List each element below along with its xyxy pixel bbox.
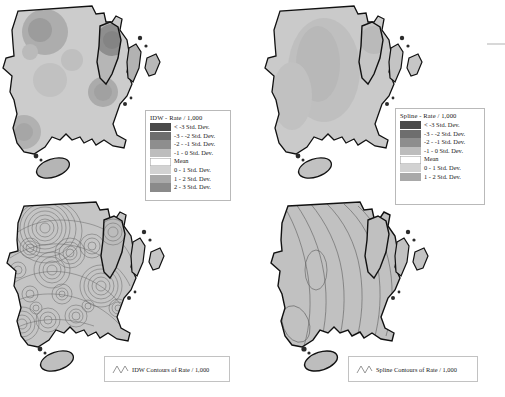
islet-f xyxy=(302,159,305,162)
legend-swatch xyxy=(400,130,421,138)
legend-idw-surface: IDW - Rate / 1,000 < -3 Std. Dev. -3 - -… xyxy=(145,110,231,201)
islet-f xyxy=(40,159,43,162)
legend-label: -2 - -1 Std. Dev. xyxy=(421,138,465,147)
islet-f xyxy=(307,351,310,354)
islet-a xyxy=(142,230,146,234)
contour-line-icon xyxy=(356,364,373,374)
islet-c xyxy=(391,296,395,300)
islet-c xyxy=(127,296,131,300)
legend-idw-rows: < -3 Std. Dev. -3 - -2 Std. Dev. -2 - -1… xyxy=(146,123,230,192)
legend-swatch xyxy=(150,123,171,131)
legend-row: -1 - 0 Std. Dev. xyxy=(150,149,230,158)
islet-b xyxy=(148,238,151,241)
legend-swatch xyxy=(150,132,171,140)
legend-spline-title: Spline - Rate / 1,000 xyxy=(396,109,484,121)
islet-b xyxy=(406,44,409,47)
corner-rule-mark xyxy=(487,43,505,45)
islet-a xyxy=(406,230,410,234)
island-east-1 xyxy=(395,238,409,276)
legend-label: Mean xyxy=(171,157,189,166)
legend-label: 2 - 3 Std. Dev. xyxy=(171,183,211,192)
legend-swatch xyxy=(150,175,171,183)
legend-row: Mean xyxy=(400,155,484,164)
island-east-1 xyxy=(127,44,141,82)
islet-e xyxy=(38,347,43,352)
islet-f xyxy=(44,352,47,355)
legend-label: -3 - -2 Std. Dev. xyxy=(421,130,465,139)
legend-swatch xyxy=(400,138,421,146)
legend-swatch xyxy=(150,183,171,191)
island-east-2 xyxy=(145,54,160,76)
islet-d xyxy=(134,291,137,294)
legend-idw-title: IDW - Rate / 1,000 xyxy=(146,111,230,123)
islet-e xyxy=(296,154,301,159)
block-island xyxy=(296,154,334,182)
legend-spline-contours: Spline Contours of Rate / 1,000 xyxy=(348,356,478,382)
block-island xyxy=(34,154,72,182)
legend-label: 0 - 1 Std. Dev. xyxy=(421,164,461,173)
islet-c xyxy=(385,102,389,106)
legend-label: < -3 Std. Dev. xyxy=(171,123,210,132)
legend-row: 1 - 2 Std. Dev. xyxy=(400,173,484,182)
block-island xyxy=(302,347,340,375)
contour-line-icon xyxy=(112,364,129,374)
legend-swatch xyxy=(400,156,421,164)
islet-b xyxy=(412,238,415,241)
islet-d xyxy=(392,97,395,100)
panel-idw-surface: IDW - Rate / 1,000 < -3 Std. Dev. -3 - -… xyxy=(0,0,253,200)
island-east-2 xyxy=(413,248,428,270)
legend-row: < -3 Std. Dev. xyxy=(150,123,230,132)
legend-spline-rows: < -3 Std. Dev. -3 - -2 Std. Dev. -2 - -1… xyxy=(396,121,484,181)
island-east-1 xyxy=(389,44,403,82)
legend-row: < -3 Std. Dev. xyxy=(400,121,484,130)
legend-row: 1 - 2 Std. Dev. xyxy=(150,175,230,184)
islet-c xyxy=(123,102,127,106)
legend-label: 1 - 2 Std. Dev. xyxy=(421,173,461,182)
legend-row: -2 - -1 Std. Dev. xyxy=(150,140,230,149)
legend-swatch xyxy=(400,121,421,129)
legend-row: 2 - 3 Std. Dev. xyxy=(150,183,230,192)
legend-swatch xyxy=(150,140,171,148)
legend-swatch xyxy=(150,149,171,157)
legend-swatch xyxy=(400,173,421,181)
legend-spline-contours-label: Spline Contours of Rate / 1,000 xyxy=(373,366,457,373)
islet-e xyxy=(34,154,39,159)
legend-idw-contours: IDW Contours of Rate / 1,000 xyxy=(104,356,230,382)
legend-swatch xyxy=(400,164,421,172)
island-east-2 xyxy=(407,54,422,76)
legend-swatch xyxy=(150,158,171,166)
legend-row: -2 - -1 Std. Dev. xyxy=(400,138,484,147)
legend-label: Mean xyxy=(421,155,439,164)
legend-row: -1 - 0 Std. Dev. xyxy=(400,147,484,156)
legend-label: -1 - 0 Std. Dev. xyxy=(421,147,463,156)
legend-label: 0 - 1 Std. Dev. xyxy=(171,166,211,175)
legend-spline-surface: Spline - Rate / 1,000 < -3 Std. Dev. -3 … xyxy=(395,108,485,205)
legend-label: -2 - -1 Std. Dev. xyxy=(171,140,215,149)
legend-idw-contours-label: IDW Contours of Rate / 1,000 xyxy=(129,366,209,373)
legend-row: -3 - -2 Std. Dev. xyxy=(150,132,230,141)
legend-row: 0 - 1 Std. Dev. xyxy=(400,164,484,173)
islet-d xyxy=(398,291,401,294)
legend-swatch xyxy=(400,147,421,155)
islet-e xyxy=(301,346,306,351)
block-island xyxy=(38,347,76,375)
island-east-1 xyxy=(131,238,145,276)
legend-row: Mean xyxy=(150,157,230,166)
legend-row: -3 - -2 Std. Dev. xyxy=(400,130,484,139)
islet-a xyxy=(138,36,142,40)
islet-a xyxy=(400,36,404,40)
legend-label: 1 - 2 Std. Dev. xyxy=(171,175,211,184)
legend-row: 0 - 1 Std. Dev. xyxy=(150,166,230,175)
islet-b xyxy=(144,44,147,47)
island-east-2 xyxy=(149,248,164,270)
legend-label: < -3 Std. Dev. xyxy=(421,121,460,130)
legend-label: -3 - -2 Std. Dev. xyxy=(171,132,215,141)
islet-d xyxy=(130,97,133,100)
legend-label: -1 - 0 Std. Dev. xyxy=(171,149,213,158)
legend-swatch xyxy=(150,166,171,174)
